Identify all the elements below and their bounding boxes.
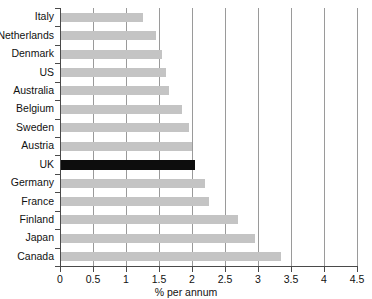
x-axis-tick-label: 4.5 bbox=[350, 274, 365, 285]
y-axis-tick bbox=[55, 63, 60, 64]
x-axis-tick-label: 3 bbox=[255, 274, 261, 285]
gridline bbox=[291, 8, 292, 266]
y-axis-tick bbox=[55, 192, 60, 193]
y-axis-tick bbox=[55, 26, 60, 27]
y-axis-tick bbox=[55, 229, 60, 230]
bar bbox=[60, 50, 162, 59]
bar bbox=[60, 215, 238, 224]
bar bbox=[60, 234, 255, 243]
y-axis-tick bbox=[55, 119, 60, 120]
x-axis-tick bbox=[357, 267, 358, 272]
y-axis-category-labels: ItalyNetherlandsDenmarkUSAustraliaBelgiu… bbox=[0, 8, 54, 266]
x-axis-tick-label: 1 bbox=[123, 274, 129, 285]
gridline bbox=[225, 8, 226, 266]
bar bbox=[60, 68, 166, 77]
bar bbox=[60, 13, 143, 22]
y-axis-category-label: Sweden bbox=[16, 122, 54, 133]
y-axis-line bbox=[60, 8, 61, 266]
y-axis-category-label: Japan bbox=[25, 232, 54, 243]
bar bbox=[60, 105, 182, 114]
y-axis-tick bbox=[55, 155, 60, 156]
y-axis-category-label: Belgium bbox=[16, 103, 54, 114]
y-axis-tick bbox=[55, 266, 60, 267]
gridline bbox=[324, 8, 325, 266]
gridline bbox=[126, 8, 127, 266]
bar bbox=[60, 123, 189, 132]
y-axis-category-label: Netherlands bbox=[0, 30, 54, 41]
x-axis-tick bbox=[126, 267, 127, 272]
y-axis-tick bbox=[55, 248, 60, 249]
y-axis-category-label: France bbox=[21, 196, 54, 207]
x-axis-tick-label: 3.5 bbox=[284, 274, 299, 285]
x-axis-tick bbox=[258, 267, 259, 272]
bar bbox=[60, 31, 156, 40]
x-axis-tick bbox=[192, 267, 193, 272]
gridline bbox=[357, 8, 358, 266]
y-axis-tick bbox=[55, 174, 60, 175]
y-axis-category-label: Germany bbox=[11, 177, 54, 188]
bar-chart: ItalyNetherlandsDenmarkUSAustraliaBelgiu… bbox=[0, 0, 372, 299]
x-axis-tick-label: 2.5 bbox=[218, 274, 233, 285]
y-axis-tick bbox=[55, 100, 60, 101]
plot-area bbox=[60, 8, 357, 266]
y-axis-category-label: US bbox=[39, 67, 54, 78]
bar bbox=[60, 142, 192, 151]
x-axis-tick bbox=[324, 267, 325, 272]
x-axis-tick-label: 0 bbox=[57, 274, 63, 285]
y-axis-category-label: Australia bbox=[13, 85, 54, 96]
y-axis-tick bbox=[55, 137, 60, 138]
y-axis-category-label: Canada bbox=[17, 251, 54, 262]
gridline bbox=[192, 8, 193, 266]
gridline bbox=[258, 8, 259, 266]
y-axis-category-label: Denmark bbox=[11, 48, 54, 59]
y-axis-category-label: Italy bbox=[35, 11, 54, 22]
bar-highlighted bbox=[60, 160, 195, 170]
x-axis-tick bbox=[159, 267, 160, 272]
y-axis-tick bbox=[55, 8, 60, 9]
y-axis-tick bbox=[55, 45, 60, 46]
bar bbox=[60, 252, 281, 261]
x-axis-tick bbox=[93, 267, 94, 272]
bar bbox=[60, 86, 169, 95]
y-axis-tick bbox=[55, 211, 60, 212]
gridline bbox=[159, 8, 160, 266]
y-axis-tick bbox=[55, 82, 60, 83]
bar bbox=[60, 179, 205, 188]
x-axis-tick bbox=[291, 267, 292, 272]
gridline bbox=[93, 8, 94, 266]
y-axis-category-label: Austria bbox=[21, 140, 54, 151]
x-axis-tick-label: 4 bbox=[321, 274, 327, 285]
y-axis-category-label: UK bbox=[39, 159, 54, 170]
bar bbox=[60, 197, 209, 206]
x-axis-tick-label: 0.5 bbox=[86, 274, 101, 285]
x-axis-tick bbox=[60, 267, 61, 272]
x-axis-title: % per annum bbox=[0, 287, 372, 298]
x-axis-line bbox=[60, 266, 358, 267]
x-axis-tick-label: 1.5 bbox=[152, 274, 167, 285]
y-axis-category-label: Finland bbox=[20, 214, 54, 225]
x-axis-tick-label: 2 bbox=[189, 274, 195, 285]
x-axis-tick bbox=[225, 267, 226, 272]
